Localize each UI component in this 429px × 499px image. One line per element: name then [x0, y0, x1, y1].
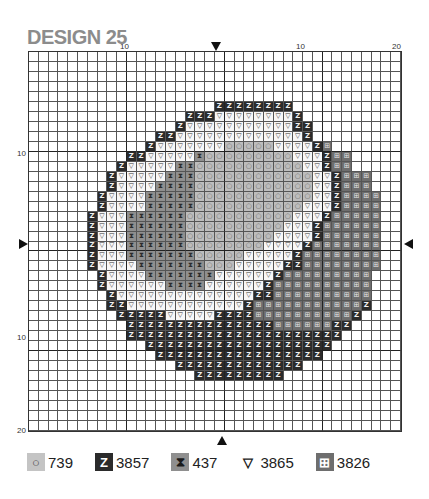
empty-cell [342, 82, 352, 92]
stitch-cell-V: ▽ [195, 142, 205, 152]
empty-cell [205, 102, 215, 112]
stitch-cell-Z: Z [323, 331, 333, 341]
stitch-cell-O: ○ [215, 212, 225, 222]
empty-cell [58, 301, 68, 311]
empty-cell [372, 82, 382, 92]
stitch-cell-Z: Z [235, 341, 245, 351]
stitch-cell-D: ⊞ [274, 281, 284, 291]
empty-cell [49, 411, 59, 421]
stitch-cell-D: ⊞ [372, 261, 382, 271]
empty-cell [88, 371, 98, 381]
stitch-cell-D: ⊞ [284, 301, 294, 311]
empty-cell [352, 82, 362, 92]
stitch-cell-Z: Z [225, 371, 235, 381]
stitch-cell-Z: Z [264, 341, 274, 351]
stitch-cell-Z: Z [127, 152, 137, 162]
stitch-cell-O: ○ [284, 202, 294, 212]
empty-cell [39, 361, 49, 371]
stitch-cell-O: ○ [303, 172, 313, 182]
empty-cell [137, 381, 147, 391]
stitch-cell-D: ⊞ [264, 301, 274, 311]
stitch-cell-V: ▽ [244, 251, 254, 261]
empty-cell [381, 132, 391, 142]
empty-cell [88, 162, 98, 172]
stitch-cell-O: ○ [225, 172, 235, 182]
stitch-cell-D: ⊞ [293, 291, 303, 301]
empty-cell [78, 162, 88, 172]
empty-cell [146, 411, 156, 421]
stitch-cell-D: ⊞ [293, 311, 303, 321]
stitch-cell-V: ▽ [107, 271, 117, 281]
stitch-cell-X: ⧗ [137, 232, 147, 242]
empty-cell [372, 381, 382, 391]
stitch-cell-V: ▽ [254, 281, 264, 291]
stitch-cell-O: ○ [186, 242, 196, 252]
empty-cell [146, 62, 156, 72]
stitch-cell-V: ▽ [107, 222, 117, 232]
empty-cell [342, 421, 352, 431]
stitch-cell-Z: Z [98, 281, 108, 291]
stitch-cell-Z: Z [293, 112, 303, 122]
empty-cell [372, 271, 382, 281]
stitch-cell-Z: Z [98, 271, 108, 281]
empty-cell [39, 261, 49, 271]
empty-cell [156, 361, 166, 371]
empty-cell [107, 361, 117, 371]
stitch-cell-O: ○ [225, 212, 235, 222]
empty-cell [195, 72, 205, 82]
empty-cell [323, 102, 333, 112]
empty-cell [264, 92, 274, 102]
stitch-cell-X: ⧗ [205, 271, 215, 281]
empty-cell [146, 371, 156, 381]
stitch-cell-D: ⊞ [313, 311, 323, 321]
empty-cell [29, 291, 39, 301]
stitch-cell-Z: Z [186, 341, 196, 351]
stitch-cell-D: ⊞ [372, 232, 382, 242]
empty-cell [88, 271, 98, 281]
stitch-cell-Z: Z [323, 212, 333, 222]
stitch-cell-O: ○ [293, 192, 303, 202]
legend-item-739: ○739 [27, 453, 73, 471]
empty-cell [146, 82, 156, 92]
empty-cell [156, 421, 166, 431]
stitch-cell-Z: Z [293, 361, 303, 371]
empty-cell [225, 401, 235, 411]
stitch-cell-O: ○ [205, 242, 215, 252]
stitch-cell-Z: Z [186, 331, 196, 341]
stitch-cell-V: ▽ [303, 222, 313, 232]
empty-cell [127, 62, 137, 72]
empty-cell [372, 72, 382, 82]
stitch-cell-D: ⊞ [323, 232, 333, 242]
empty-cell [381, 271, 391, 281]
stitch-cell-X: ⧗ [137, 212, 147, 222]
stitch-cell-Z: Z [274, 102, 284, 112]
empty-cell [381, 162, 391, 172]
empty-cell [78, 331, 88, 341]
empty-cell [127, 132, 137, 142]
empty-cell [58, 242, 68, 252]
empty-cell [166, 112, 176, 122]
stitch-cell-V: ▽ [264, 112, 274, 122]
empty-cell [29, 281, 39, 291]
empty-cell [332, 361, 342, 371]
empty-cell [303, 421, 313, 431]
stitch-cell-V: ▽ [205, 291, 215, 301]
empty-cell [391, 271, 401, 281]
stitch-cell-V: ▽ [254, 261, 264, 271]
empty-cell [49, 82, 59, 92]
stitch-cell-V: ▽ [313, 162, 323, 172]
empty-cell [323, 351, 333, 361]
stitch-cell-D: ⊞ [372, 222, 382, 232]
empty-cell [166, 72, 176, 82]
stitch-cell-O: ○ [225, 152, 235, 162]
empty-cell [372, 152, 382, 162]
empty-cell [205, 411, 215, 421]
empty-cell [78, 281, 88, 291]
empty-cell [49, 281, 59, 291]
stitch-cell-Z: Z [284, 361, 294, 371]
empty-cell [313, 82, 323, 92]
empty-cell [68, 261, 78, 271]
stitch-cell-O: ○ [215, 261, 225, 271]
stitch-cell-Z: Z [166, 351, 176, 361]
empty-cell [68, 142, 78, 152]
